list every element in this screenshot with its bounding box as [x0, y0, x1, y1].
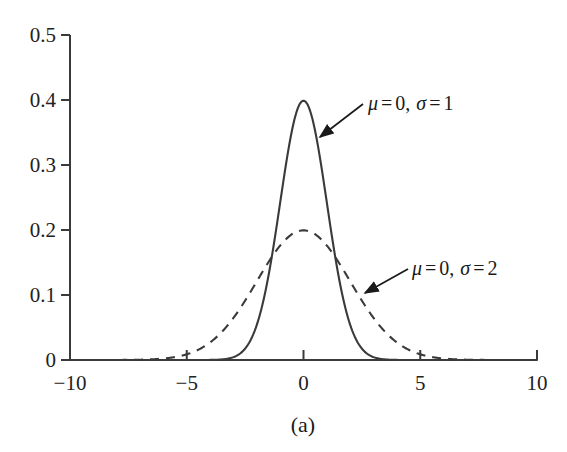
y-tick-label: 0.3 [30, 153, 56, 177]
x-tick-label: −10 [54, 371, 87, 395]
x-tick-label: −5 [176, 371, 198, 395]
y-tick-label: 0.2 [30, 218, 56, 242]
x-tick-label: 5 [415, 371, 426, 395]
y-tick-label: 0 [46, 348, 57, 372]
y-tick-label: 0.1 [30, 283, 56, 307]
y-tick-label: 0.4 [30, 88, 57, 112]
normal-distribution-figure: 00.10.20.30.40.5 −10−50510 μ=0,σ=1μ=0,σ=… [0, 0, 567, 452]
x-tick-label: 10 [527, 371, 548, 395]
figure-caption: (a) [291, 412, 315, 437]
y-tick-label: 0.5 [30, 23, 56, 47]
x-tick-label: 0 [298, 371, 309, 395]
